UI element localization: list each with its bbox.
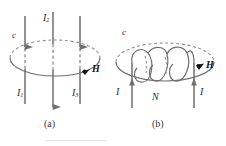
coil-winding (132, 47, 194, 82)
panel-b-label-turns-N: N (152, 92, 159, 102)
figure-ampere-law: c I2 I1 I3 H (a) (0, 0, 226, 146)
amperian-loop-c (116, 43, 214, 81)
circulation-arrowhead (82, 70, 90, 76)
coil-hidden-segments (145, 56, 167, 74)
panel-b-loop-label: c (122, 28, 126, 37)
panel-a-label-I1: I1 (17, 88, 23, 99)
lead-wire-left (129, 63, 135, 108)
panel-b-label-current-right: I (200, 87, 203, 97)
panel-a-label-I3: I3 (72, 88, 78, 99)
panel-a-caption: (a) (44, 119, 55, 129)
panel-b-field-label-H: H (206, 60, 214, 70)
panel-a-label-I2: I2 (43, 13, 49, 24)
bottom-rule (45, 140, 107, 141)
circulation-arrowhead (196, 64, 204, 71)
lead-wire-right (191, 63, 197, 108)
panel-b-caption: (b) (152, 119, 164, 129)
panel-b-drawing (108, 0, 226, 146)
panel-a-loop-label: c (12, 31, 16, 40)
panel-a-field-label-H: H (92, 64, 100, 74)
panel-b-label-current-left: I (116, 87, 119, 97)
